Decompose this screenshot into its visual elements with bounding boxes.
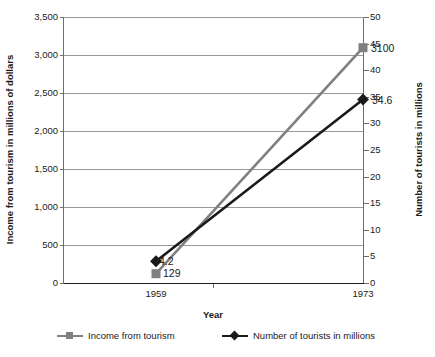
legend-item-income-from-tourism[interactable]: Income from tourism	[57, 330, 175, 341]
right-tick-45: 45	[370, 39, 381, 49]
left-tick-3000: 3,000	[34, 50, 58, 60]
series-income-marker-1973	[359, 43, 368, 52]
series-tourists-line	[156, 100, 363, 262]
left-tick-500: 500	[42, 240, 58, 250]
right-tick-5: 5	[370, 251, 375, 261]
right-axis-title: Number of tourists in millions	[413, 50, 424, 250]
series-income-from-tourism	[152, 43, 368, 278]
x-tick-1973: 1973	[333, 288, 393, 299]
left-tick-0: 0	[53, 278, 58, 288]
right-axis-tick-labels: 50 45 40 35 30 25 20 15 10 5 0	[370, 0, 410, 357]
series-number-of-tourists	[150, 94, 369, 268]
right-tick-25: 25	[370, 145, 381, 155]
left-tick-1000: 1,000	[34, 202, 58, 212]
legend-swatch-tourists	[222, 331, 248, 341]
chart-legend: Income from tourism Number of tourists i…	[0, 330, 435, 348]
left-tick-2500: 2,500	[34, 88, 58, 98]
legend-label-income: Income from tourism	[88, 330, 175, 341]
left-axis-title: Income from tourism in millions of dolla…	[4, 50, 15, 250]
right-tick-15: 15	[370, 198, 381, 208]
data-label-tourists-1959: 4.2	[159, 255, 174, 267]
x-tick-1959: 1959	[126, 288, 186, 299]
left-tick-1500: 1,500	[34, 164, 58, 174]
series-income-line	[156, 48, 363, 274]
right-tick-35: 35	[370, 92, 381, 102]
legend-item-number-of-tourists[interactable]: Number of tourists in millions	[222, 330, 375, 341]
series-income-marker-1959	[152, 269, 161, 278]
legend-swatch-income	[57, 331, 83, 341]
right-tick-20: 20	[370, 172, 381, 182]
left-tick-2000: 2,000	[34, 126, 58, 136]
left-axis	[60, 18, 64, 284]
left-tick-3500: 3,500	[34, 12, 58, 22]
left-axis-tick-labels: 3,500 3,000 2,500 2,000 1,500 1,000 500 …	[14, 0, 58, 357]
right-tick-40: 40	[370, 65, 381, 75]
diamond-marker-icon	[230, 330, 240, 340]
data-label-income-1959: 129	[163, 267, 181, 279]
right-tick-30: 30	[370, 118, 381, 128]
right-tick-10: 10	[370, 225, 381, 235]
dual-axis-line-chart: 129 3100 4.2 34.6 3,500 3,000 2,500 2,00…	[0, 0, 435, 357]
right-tick-50: 50	[370, 12, 381, 22]
x-axis-title: Year	[63, 309, 363, 320]
right-axis	[364, 18, 369, 284]
right-tick-0: 0	[370, 278, 375, 288]
legend-label-tourists: Number of tourists in millions	[253, 330, 375, 341]
square-marker-icon	[66, 332, 73, 339]
